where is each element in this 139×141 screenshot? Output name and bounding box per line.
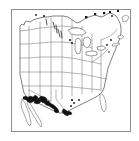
occurrence-dot-northern-plains-1 [43,15,45,17]
occurrence-dot-new-england-1 [103,12,105,14]
lake-erie-outline [86,51,97,56]
occurrence-dot-great-lakes-1 [69,39,71,41]
distribution-map-figure: Small black and white outline map of the… [0,0,139,141]
occurrence-dot-midatlantic-1 [106,44,108,46]
occurrence-dot-northern-plains-2 [35,14,37,16]
lake-michigan-outline [75,38,81,54]
occurrence-dot-central-texas-1 [71,99,73,101]
occurrence-dot-midatlantic-3 [108,51,110,53]
occurrence-dot-central-texas-3 [70,105,72,107]
occurrence-dot-new-england-2 [109,11,111,13]
occurrence-dot-central-texas-2 [73,102,75,104]
occurrence-dot-louisiana-gulf [78,99,80,101]
occurrence-dot-midatlantic-2 [110,39,112,41]
occurrence-dot-maine [117,10,119,12]
occurrence-dot-new-england-3 [111,15,113,17]
occurrence-dot-great-lakes-2 [71,42,73,44]
occurrence-dot-quebec-border [94,13,96,15]
map-canvas [0,0,139,141]
occurrence-dot-ontario-border [85,16,87,18]
